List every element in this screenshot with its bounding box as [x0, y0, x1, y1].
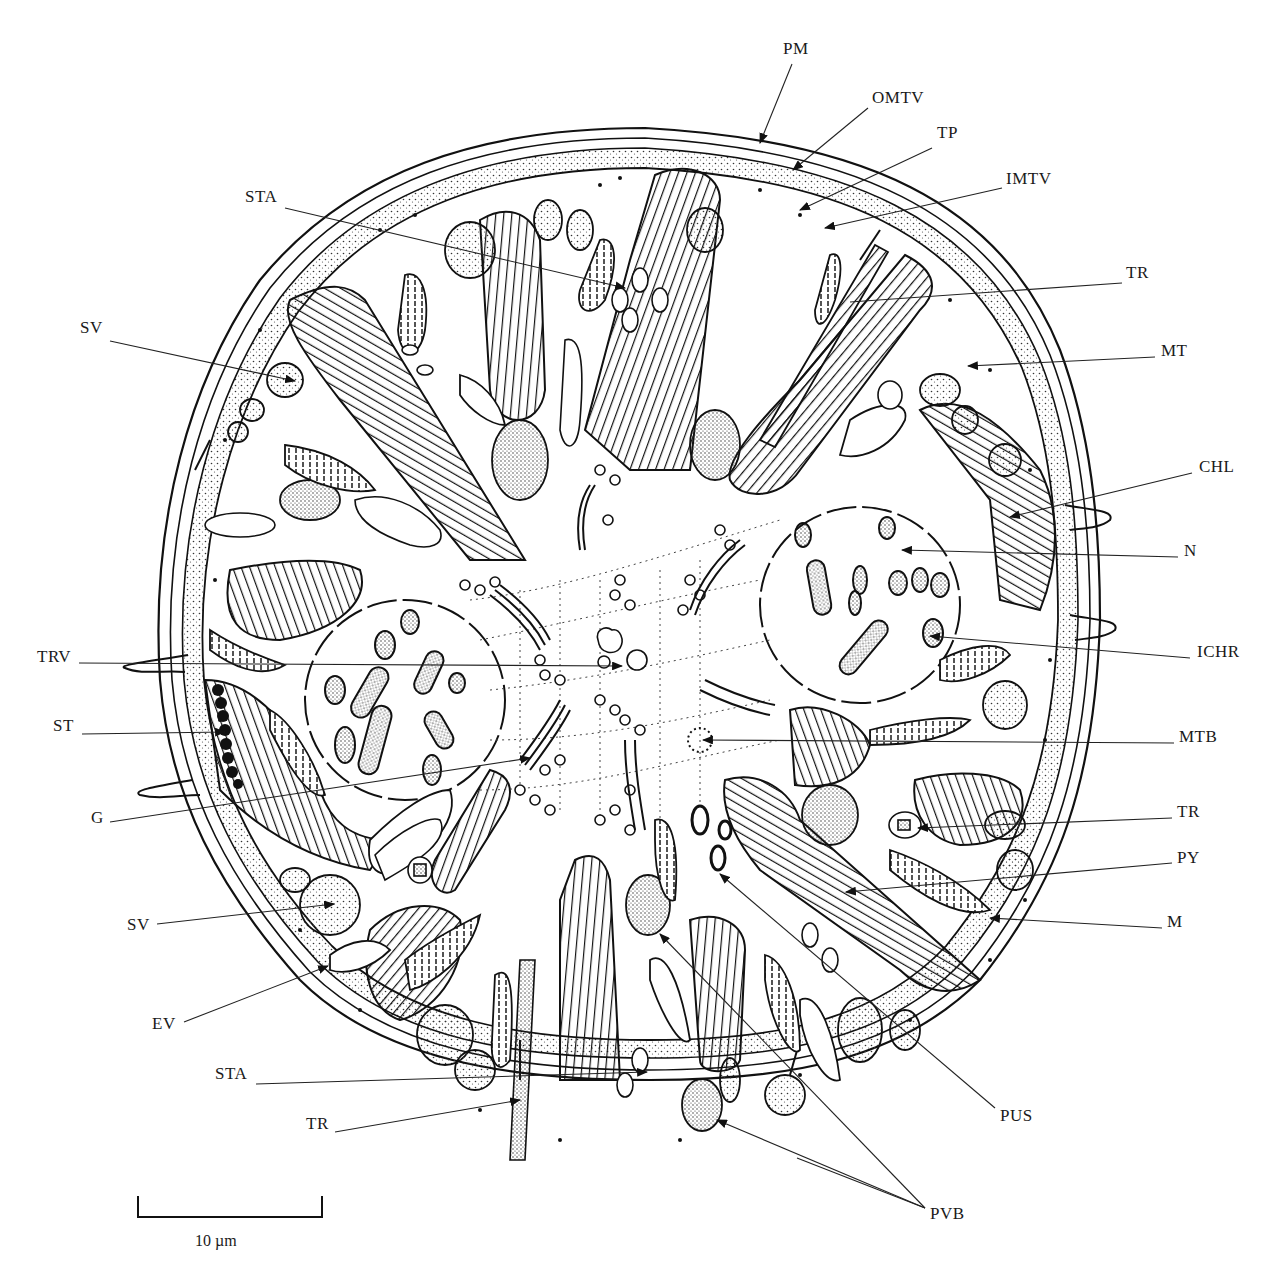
label-pus: PUS: [1000, 1107, 1033, 1124]
label-sv-top: SV: [80, 319, 103, 336]
label-tp: TP: [937, 124, 958, 141]
label-tr-right: TR: [1177, 803, 1200, 820]
central-vesicle: [597, 628, 622, 652]
label-pvb: PVB: [930, 1205, 965, 1222]
label-ev: EV: [152, 1015, 176, 1032]
cell-cross-section-figure: PMOMTVTPIMTVTRMTCHLNICHRMTBTRPYMSTASVTRV…: [0, 0, 1284, 1286]
label-n: N: [1184, 542, 1197, 559]
label-tr-bottom: TR: [306, 1115, 329, 1132]
scale-bar-label: 10 µm: [195, 1232, 237, 1250]
scale-bar: [138, 1196, 322, 1217]
cell-drawing: [0, 0, 1284, 1286]
label-py: PY: [1177, 849, 1200, 866]
label-sta-top: STA: [245, 188, 277, 205]
label-st: ST: [53, 717, 74, 734]
label-sv-bottom: SV: [127, 916, 150, 933]
label-ichr: ICHR: [1197, 643, 1240, 660]
label-tr-top: TR: [1126, 264, 1149, 281]
label-pm: PM: [783, 40, 809, 57]
label-chl: CHL: [1199, 458, 1235, 475]
label-omtv: OMTV: [872, 89, 924, 106]
label-m: M: [1167, 913, 1183, 930]
label-g: G: [91, 809, 104, 826]
label-mtb: MTB: [1179, 728, 1217, 745]
label-trv: TRV: [37, 648, 71, 665]
label-sta-bottom: STA: [215, 1065, 247, 1082]
label-imtv: IMTV: [1006, 170, 1051, 187]
label-mt: MT: [1161, 342, 1188, 359]
